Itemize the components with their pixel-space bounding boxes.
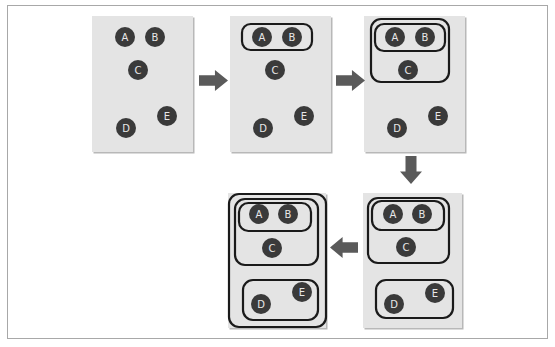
panel-step-2: ABCDE [230, 16, 333, 154]
panel-background [230, 16, 331, 152]
node-a: A [115, 27, 135, 47]
node-label: D [259, 123, 267, 134]
node-d: D [384, 294, 404, 314]
node-d: D [116, 118, 136, 138]
node-d: D [251, 294, 271, 314]
node-a: A [249, 204, 269, 224]
node-b: B [415, 27, 435, 47]
node-label: A [390, 209, 397, 220]
node-b: B [412, 204, 432, 224]
node-label: B [422, 32, 429, 43]
node-label: B [289, 32, 296, 43]
node-label: E [301, 111, 307, 122]
node-d: D [253, 118, 273, 138]
node-e: E [157, 106, 177, 126]
panel-background [92, 16, 193, 152]
node-label: D [122, 123, 130, 134]
panel-step-3: ABCDE [364, 16, 467, 154]
node-c: C [396, 237, 416, 257]
node-label: B [285, 209, 292, 220]
arrow-4-to-5-icon [330, 237, 358, 258]
node-label: A [256, 209, 263, 220]
arrow-3-to-4-icon [400, 156, 422, 184]
node-label: C [272, 65, 279, 76]
node-a: A [383, 204, 403, 224]
node-b: B [145, 27, 165, 47]
node-a: A [385, 27, 405, 47]
node-label: A [259, 32, 266, 43]
node-e: E [425, 283, 445, 303]
arrow-1-to-2-icon [199, 70, 228, 91]
panel-step-4: ABCDE [363, 193, 464, 330]
clustering-diagram: ABCDEABCDEABCDEABCDEABCDE [0, 0, 555, 347]
node-label: D [390, 299, 398, 310]
node-label: E [435, 111, 441, 122]
node-c: C [128, 60, 148, 80]
node-d: D [387, 118, 407, 138]
node-label: A [392, 32, 399, 43]
node-label: C [405, 65, 412, 76]
node-e: E [428, 106, 448, 126]
node-b: B [282, 27, 302, 47]
node-label: B [419, 209, 426, 220]
node-label: C [135, 65, 142, 76]
node-a: A [252, 27, 272, 47]
node-label: E [299, 287, 305, 298]
node-label: E [432, 288, 438, 299]
node-label: A [122, 32, 129, 43]
node-e: E [294, 106, 314, 126]
node-label: C [269, 243, 276, 254]
node-label: E [164, 111, 170, 122]
node-e: E [292, 282, 312, 302]
node-label: C [403, 242, 410, 253]
node-c: C [398, 60, 418, 80]
panel-step-5: ABCDE [228, 193, 328, 330]
panel-step-1: ABCDE [92, 16, 195, 154]
node-c: C [262, 238, 282, 258]
node-label: D [257, 299, 265, 310]
node-c: C [265, 60, 285, 80]
node-b: B [278, 204, 298, 224]
arrow-2-to-3-icon [336, 70, 365, 91]
node-label: B [152, 32, 159, 43]
node-label: D [393, 123, 401, 134]
